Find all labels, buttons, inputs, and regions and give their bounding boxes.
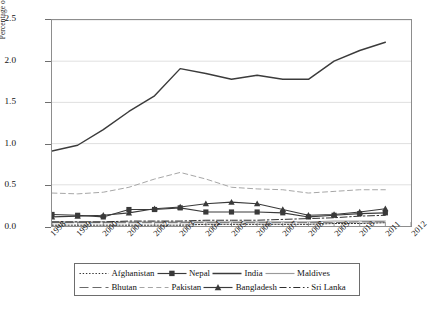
legend-key-pakistan [139, 282, 169, 293]
legend-key-nepal [157, 268, 187, 279]
chart-legend: AfghanistanNepalIndiaMaldives BhutanPaki… [74, 263, 360, 296]
legend-key-bhutan [79, 282, 109, 293]
legend-label: Pakistan [171, 282, 201, 292]
legend-key-afghanistan [79, 268, 109, 279]
legend-key-bangladesh [203, 282, 233, 293]
legend-key-india [212, 268, 242, 279]
legend-label: Sri Lanka [311, 282, 345, 292]
legend-item-india[interactable]: India [212, 268, 265, 279]
legend-item-sri-lanka[interactable]: Sri Lanka [279, 282, 348, 293]
legend-item-afghanistan[interactable]: Afghanistan [79, 268, 157, 279]
plot-area [51, 19, 412, 227]
legend-label: Maldives [297, 268, 330, 278]
series-line-india [52, 42, 385, 151]
legend-label: India [245, 268, 263, 278]
legend-label: Nepal [189, 268, 210, 278]
series-line-pakistan [52, 172, 385, 193]
legend-key-maldives [265, 268, 295, 279]
legend-label: Bhutan [112, 282, 137, 292]
y-tick-label: 1.0 [0, 139, 16, 148]
chart-figure: Percentage of arrivals 0.00.51.01.52.02.… [0, 0, 434, 310]
y-tick-label: 0.0 [0, 222, 16, 231]
series-marker-nepal [255, 209, 260, 214]
legend-row-2: BhutanPakistanBangladeshSri Lanka [79, 280, 355, 294]
y-tick-label: 2.0 [0, 56, 16, 65]
legend-item-pakistan[interactable]: Pakistan [139, 282, 203, 293]
legend-item-maldives[interactable]: Maldives [265, 268, 332, 279]
series-marker-bangladesh [382, 206, 388, 212]
y-tick-label: 1.5 [0, 97, 16, 106]
legend-item-bhutan[interactable]: Bhutan [79, 282, 139, 293]
legend-key-sri-lanka [279, 282, 309, 293]
legend-label: Afghanistan [112, 268, 155, 278]
legend-label: Bangladesh [236, 282, 277, 292]
figure-caption [62, 299, 322, 308]
chart-plot-svg [52, 20, 411, 226]
legend-item-bangladesh[interactable]: Bangladesh [203, 282, 279, 293]
series-marker-nepal [203, 209, 208, 214]
legend-row-1: AfghanistanNepalIndiaMaldives [79, 266, 355, 280]
y-tick-label: 0.5 [0, 180, 16, 189]
legend-item-nepal[interactable]: Nepal [157, 268, 213, 279]
y-tick-label: 2.5 [0, 14, 16, 23]
series-marker-nepal [229, 209, 234, 214]
